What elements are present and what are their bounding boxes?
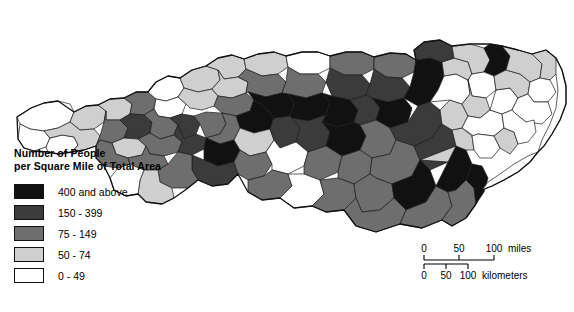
county-polygon (528, 78, 556, 102)
scale-km-unit-label: kilometers (482, 270, 528, 281)
legend-label: 75 - 149 (58, 228, 97, 240)
legend-label: 400 and above (58, 186, 127, 198)
scale-km-tick-100: 100 (460, 270, 477, 281)
legend-item: 75 - 149 (14, 223, 224, 244)
legend-label: 50 - 74 (58, 249, 91, 261)
legend-swatch (14, 184, 44, 199)
legend-title-line-2: per Square Mile of Total Area (14, 160, 224, 173)
legend-label: 150 - 399 (58, 207, 102, 219)
map-figure: Number of People per Square Mile of Tota… (0, 0, 574, 312)
scale-miles-tick-100: 100 (486, 243, 503, 254)
scale-miles-tick-50: 50 (453, 243, 465, 254)
county-polygon (468, 72, 496, 98)
scale-bar: 0 50 100 miles 0 50 100 kilometers (420, 243, 570, 283)
scale-kilometers-bar (424, 264, 468, 269)
legend-swatch (14, 226, 44, 241)
legend-title-line-1: Number of People (14, 147, 224, 160)
legend-item: 0 - 49 (14, 265, 224, 286)
legend-item: 400 and above (14, 181, 224, 202)
scale-miles-tick-0: 0 (421, 243, 427, 254)
scale-miles-bar (424, 255, 494, 260)
legend: Number of People per Square Mile of Tota… (14, 147, 224, 286)
legend-item: 150 - 399 (14, 202, 224, 223)
legend-items: 400 and above 150 - 399 75 - 149 50 - 74… (14, 181, 224, 286)
legend-swatch (14, 268, 44, 283)
legend-title: Number of People per Square Mile of Tota… (14, 147, 224, 172)
legend-swatch (14, 247, 44, 262)
scale-km-tick-0: 0 (421, 270, 427, 281)
legend-label: 0 - 49 (58, 270, 85, 282)
scale-bar-graphic: 0 50 100 miles 0 50 100 kilometers (420, 243, 570, 283)
scale-miles-unit-label: miles (508, 243, 531, 254)
scale-km-tick-50: 50 (440, 270, 452, 281)
legend-item: 50 - 74 (14, 244, 224, 265)
legend-swatch (14, 205, 44, 220)
